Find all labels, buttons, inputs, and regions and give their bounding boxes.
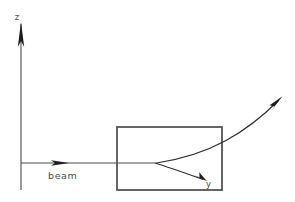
horizontal-axis-label: y	[206, 179, 211, 189]
diagram-background	[0, 0, 295, 202]
vertical-axis-label: z	[15, 12, 20, 22]
beam-trajectory-diagram: z beam y	[0, 0, 295, 202]
beam-label: beam	[48, 170, 77, 181]
diagram-canvas: z beam y	[0, 0, 295, 202]
